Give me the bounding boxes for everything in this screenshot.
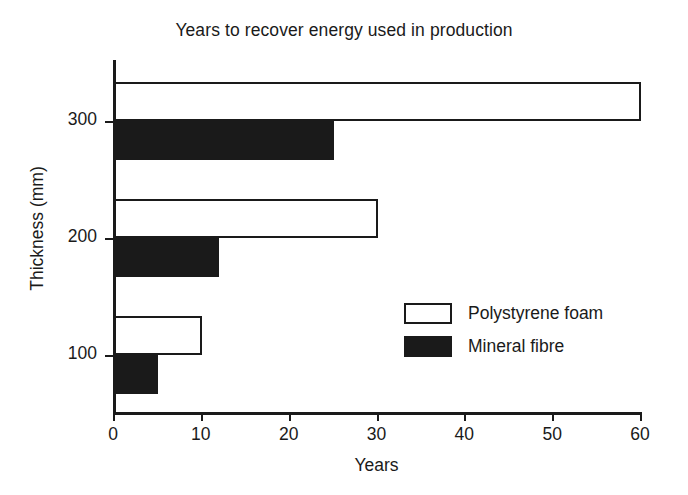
x-tick-mark — [201, 412, 203, 421]
legend-label: Polystyrene foam — [468, 303, 603, 324]
bar-200mm-mineral-fibre — [114, 238, 219, 277]
y-tick-label: 100 — [5, 343, 97, 364]
chart-legend: Polystyrene foamMineral fibre — [404, 297, 603, 363]
y-tick-mark — [105, 238, 113, 240]
chart-title: Years to recover energy used in producti… — [0, 20, 688, 41]
y-tick-label: 200 — [5, 226, 97, 247]
x-tick-mark — [113, 412, 115, 421]
legend-swatch-mineral-fibre — [404, 336, 452, 357]
legend-item: Polystyrene foam — [404, 297, 603, 330]
bar-300mm-polystyrene-foam — [114, 82, 641, 121]
x-tick-label: 50 — [522, 424, 582, 445]
x-tick-label: 40 — [434, 424, 494, 445]
x-tick-label: 20 — [259, 424, 319, 445]
x-axis-label: Years — [113, 455, 640, 476]
y-tick-mark — [105, 121, 113, 123]
bar-200mm-polystyrene-foam — [114, 199, 378, 238]
x-tick-label: 30 — [347, 424, 407, 445]
x-tick-mark — [464, 412, 466, 421]
legend-label: Mineral fibre — [468, 336, 564, 357]
x-tick-label: 60 — [610, 424, 670, 445]
x-tick-label: 0 — [83, 424, 143, 445]
x-tick-label: 10 — [171, 424, 231, 445]
y-tick-mark — [105, 355, 113, 357]
x-tick-mark — [289, 412, 291, 421]
legend-swatch-polystyrene-foam — [404, 303, 452, 324]
x-tick-mark — [552, 412, 554, 421]
chart-container: Years to recover energy used in producti… — [0, 0, 688, 495]
bar-300mm-mineral-fibre — [114, 121, 334, 160]
y-tick-label: 300 — [5, 109, 97, 130]
bar-100mm-mineral-fibre — [114, 355, 158, 394]
x-tick-mark — [377, 412, 379, 421]
legend-item: Mineral fibre — [404, 330, 603, 363]
bar-100mm-polystyrene-foam — [114, 316, 202, 355]
x-tick-mark — [640, 412, 642, 421]
